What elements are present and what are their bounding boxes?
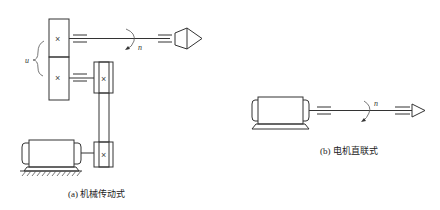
panel-a-mechanical-drive: × × u n × ×: [20, 19, 202, 199]
panel-b-direct-drive: n (b) 电机直联式: [252, 97, 425, 156]
caption-b: (b) 电机直联式: [320, 145, 378, 156]
label-u: u: [25, 56, 29, 65]
gear-mark-top: ×: [55, 34, 60, 44]
label-n-a: n: [138, 43, 142, 52]
pulley-mark-bottom: ×: [101, 150, 106, 160]
spindle-drive-diagram: × × u n × ×: [0, 0, 440, 210]
motor-b: [252, 97, 309, 129]
motor-a: [20, 140, 94, 176]
pulley-mark-top: ×: [101, 74, 106, 84]
cutter-tool: [175, 28, 202, 49]
brace: [33, 41, 44, 76]
caption-a: (a) 机械传动式: [68, 188, 125, 199]
gear-mark-bottom: ×: [55, 73, 60, 83]
label-n-b: n: [374, 99, 378, 108]
tool-tip: [412, 104, 425, 117]
